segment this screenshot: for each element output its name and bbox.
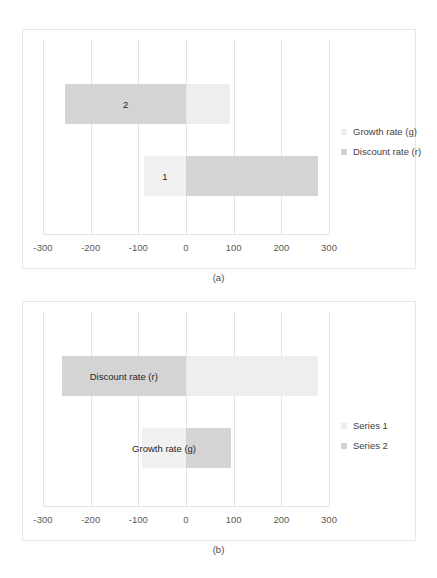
gridline [186,40,187,235]
x-tick-label: -200 [81,242,100,253]
gridline [186,312,187,507]
gridline [43,40,44,235]
x-tick-label: 200 [273,242,289,253]
plot-area-a: 21 [43,40,329,235]
gridline [234,40,235,235]
bar-value-label: 1 [162,171,167,182]
gridline [329,40,330,235]
bar-value-label: 2 [123,99,128,110]
bar-row[interactable]: Discount rate (r) [43,356,329,396]
gridline [234,312,235,507]
gridlines-b [43,312,329,507]
gridline [91,312,92,507]
bar-segment[interactable] [186,84,230,124]
x-tick-label: 0 [183,242,188,253]
x-tick-label: 100 [226,242,242,253]
legend-label: Growth rate (g) [353,126,417,137]
bar-row[interactable]: Growth rate (g) [43,428,329,468]
x-tick-labels-a: -300-200-1000100200300 [43,242,329,258]
x-tick-labels-b: -300-200-1000100200300 [43,514,329,530]
chart-panel-a: 21 -300-200-1000100200300 Growth rate (g… [22,29,416,269]
legend-b: Series 1Series 2 [341,420,388,451]
gridline [281,312,282,507]
legend-item[interactable]: Series 1 [341,420,388,431]
gridline [91,40,92,235]
bar-value-label: Discount rate (r) [90,371,158,382]
legend-swatch-icon [341,129,347,135]
gridline [329,312,330,507]
x-tick-label: -100 [129,242,148,253]
bar-segment[interactable] [186,156,318,196]
legend-swatch-icon [341,443,347,449]
gridline [138,312,139,507]
x-tick-label: 100 [226,514,242,525]
panel-caption-b: (b) [0,544,437,555]
legend-a: Growth rate (g)Discount rate (r) [341,126,421,157]
chart-panel-b: Discount rate (r)Growth rate (g) -300-20… [22,301,416,541]
x-axis-line-a [43,234,329,235]
gridline [43,312,44,507]
x-tick-label: 300 [321,242,337,253]
bar-row[interactable]: 1 [43,156,329,196]
gridline [138,40,139,235]
x-tick-label: 200 [273,514,289,525]
bar-value-label: Growth rate (g) [132,443,196,454]
x-tick-label: -100 [129,514,148,525]
gridline [281,40,282,235]
legend-label: Series 2 [353,440,388,451]
x-tick-label: -300 [33,242,52,253]
x-tick-label: 0 [183,514,188,525]
panel-caption-a: (a) [0,272,437,283]
legend-item[interactable]: Series 2 [341,440,388,451]
legend-swatch-icon [341,149,347,155]
x-axis-line-b [43,506,329,507]
bar-row[interactable]: 2 [43,84,329,124]
x-tick-label: 300 [321,514,337,525]
legend-swatch-icon [341,423,347,429]
x-tick-label: -300 [33,514,52,525]
legend-label: Series 1 [353,420,388,431]
gridlines-a [43,40,329,235]
plot-area-b: Discount rate (r)Growth rate (g) [43,312,329,507]
legend-item[interactable]: Growth rate (g) [341,126,421,137]
legend-label: Discount rate (r) [353,146,421,157]
bar-segment[interactable] [186,356,318,396]
figure-container: 21 -300-200-1000100200300 Growth rate (g… [0,0,437,578]
x-tick-label: -200 [81,514,100,525]
legend-item[interactable]: Discount rate (r) [341,146,421,157]
